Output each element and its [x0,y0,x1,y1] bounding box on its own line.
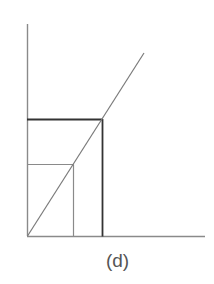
diagram-canvas [0,0,214,284]
figure-label: (d) [0,249,214,273]
diagonal-line [28,53,145,236]
